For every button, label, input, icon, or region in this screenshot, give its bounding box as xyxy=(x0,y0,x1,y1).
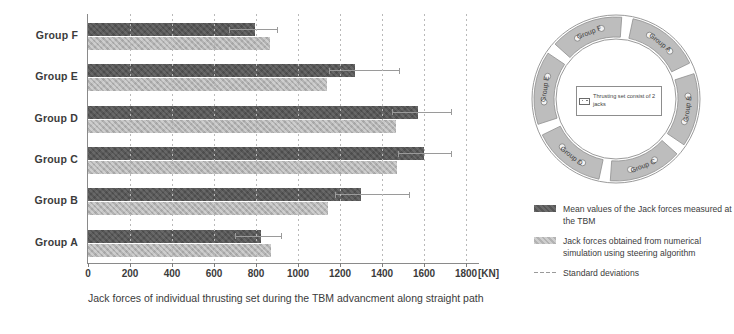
bar-mean-measured xyxy=(88,106,418,119)
x-tick-mark xyxy=(172,263,173,267)
x-tick-mark xyxy=(298,263,299,267)
bar-simulated xyxy=(88,244,271,257)
x-tick-label: 400 xyxy=(164,268,181,279)
bar-group xyxy=(88,106,466,134)
y-axis-label-group-b: Group B xyxy=(35,194,78,206)
bar-group xyxy=(88,188,466,216)
x-tick-mark xyxy=(130,263,131,267)
x-tick-label: 1400 xyxy=(371,268,393,279)
bar-simulated xyxy=(88,202,328,215)
error-bar xyxy=(392,112,453,113)
bar-simulated xyxy=(88,161,397,174)
y-axis-label-group-c: Group C xyxy=(35,153,78,165)
error-bar xyxy=(229,29,278,30)
bar-group xyxy=(88,23,466,51)
ring-segment-group-f xyxy=(555,17,622,58)
x-axis-caption: Jack forces of individual thrusting set … xyxy=(88,292,508,304)
x-tick-mark xyxy=(424,263,425,267)
legend-label: Standard deviations xyxy=(563,267,639,279)
gridline xyxy=(340,14,341,262)
ring-segment-group-e xyxy=(534,53,565,124)
gridline xyxy=(214,14,215,262)
x-tick-label: 1800 xyxy=(455,268,477,279)
plot-area xyxy=(88,14,466,262)
x-tick-mark xyxy=(340,263,341,267)
x-tick-mark xyxy=(466,263,467,267)
legend-swatch-std xyxy=(534,269,556,276)
gridline xyxy=(298,14,299,262)
ring-segment-group-b xyxy=(667,74,698,145)
x-axis-line xyxy=(87,263,479,264)
legend-swatch-sim xyxy=(534,237,556,244)
legend-item: Jack forces obtained from numerical simu… xyxy=(534,235,734,260)
bar-group xyxy=(88,147,466,175)
y-axis-label-group-a: Group A xyxy=(35,236,78,248)
legend-swatch-mean xyxy=(534,205,556,212)
x-tick-label: 600 xyxy=(206,268,223,279)
gridline xyxy=(130,14,131,262)
legend-label: Jack forces obtained from numerical simu… xyxy=(563,235,734,260)
x-tick-label: 0 xyxy=(85,268,91,279)
y-axis-label-group-d: Group D xyxy=(35,112,78,124)
two-jacks-icon xyxy=(579,98,590,105)
bar-simulated xyxy=(88,120,396,133)
x-tick-label: 800 xyxy=(248,268,265,279)
x-tick-mark xyxy=(382,263,383,267)
chart-legend: Mean values of the Jack forces measured … xyxy=(534,203,734,286)
figure-root: 020040060080010001200140016001800[KN] Gr… xyxy=(0,0,734,334)
legend-item: Mean values of the Jack forces measured … xyxy=(534,203,734,228)
gridline xyxy=(256,14,257,262)
gridline xyxy=(172,14,173,262)
legend-label: Mean values of the Jack forces measured … xyxy=(563,203,734,228)
x-axis-unit-label: [KN] xyxy=(478,268,499,279)
tbm-ring-diagram: Group AGroup BGroup CGroup DGroup EGroup… xyxy=(510,6,734,198)
x-tick-mark xyxy=(88,263,89,267)
error-bar xyxy=(235,236,282,237)
bar-mean-measured xyxy=(88,188,361,201)
y-axis-label-layer: Group AGroup BGroup CGroup DGroup EGroup… xyxy=(0,14,84,262)
y-axis-label-group-f: Group F xyxy=(36,29,78,41)
bar-mean-measured xyxy=(88,64,355,77)
ring-center-note: Thrusting set consist of 2 jacks xyxy=(576,86,662,116)
x-tick-label: 1200 xyxy=(329,268,351,279)
x-tick-label: 200 xyxy=(122,268,139,279)
gridline xyxy=(466,14,467,262)
bar-group xyxy=(88,64,466,92)
x-tick-label: 1000 xyxy=(287,268,309,279)
bar-simulated xyxy=(88,78,327,91)
legend-item: Standard deviations xyxy=(534,267,734,279)
gridline xyxy=(424,14,425,262)
x-tick-label: 1600 xyxy=(413,268,435,279)
error-bar xyxy=(398,153,452,154)
bar-group xyxy=(88,230,466,258)
error-bar xyxy=(335,194,410,195)
bar-simulated xyxy=(88,37,270,50)
bar-chart-panel: 020040060080010001200140016001800[KN] Gr… xyxy=(0,0,506,334)
y-axis-label-group-e: Group E xyxy=(35,70,78,82)
gridline xyxy=(382,14,383,262)
x-tick-mark xyxy=(214,263,215,267)
x-tick-mark xyxy=(256,263,257,267)
ring-center-note-text: Thrusting set consist of 2 jacks xyxy=(593,93,659,108)
